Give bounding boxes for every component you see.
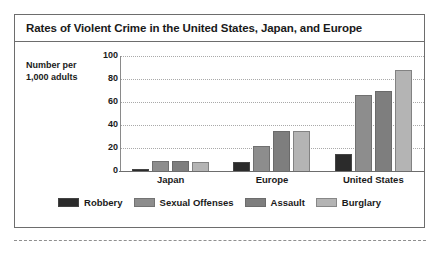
legend-item[interactable]: Sexual Offenses xyxy=(134,197,234,208)
figure-frame: Rates of Violent Crime in the United Sta… xyxy=(14,14,425,228)
y-axis-tick-label: 100 xyxy=(92,50,118,60)
bar[interactable] xyxy=(335,154,352,171)
legend-label: Assault xyxy=(271,197,305,208)
title-bar: Rates of Violent Crime in the United Sta… xyxy=(15,15,424,42)
bar[interactable] xyxy=(395,70,412,171)
bar[interactable] xyxy=(355,95,372,171)
y-axis-tick-label: 0 xyxy=(92,165,118,175)
bars xyxy=(323,56,424,171)
bar[interactable] xyxy=(172,161,189,171)
bar-group: Europe xyxy=(221,56,322,171)
y-axis-caption-line1: Number per xyxy=(26,59,96,71)
bar-group: Japan xyxy=(120,56,221,171)
legend-item[interactable]: Assault xyxy=(245,197,305,208)
bar-group: United States xyxy=(323,56,424,171)
bar[interactable] xyxy=(375,91,392,172)
x-axis-category-label: Europe xyxy=(221,174,322,185)
y-axis-caption-line2: 1,000 adults xyxy=(26,71,96,83)
bars xyxy=(221,56,322,171)
y-axis-tick-label: 20 xyxy=(92,142,118,152)
legend: RobberySexual OffensesAssaultBurglary xyxy=(15,197,424,208)
bar[interactable] xyxy=(233,162,250,171)
bar[interactable] xyxy=(132,169,149,171)
legend-swatch xyxy=(58,198,79,207)
bar[interactable] xyxy=(253,146,270,171)
legend-swatch xyxy=(134,198,155,207)
y-axis-tick-label: 80 xyxy=(92,73,118,83)
y-axis-tick-label: 40 xyxy=(92,119,118,129)
legend-label: Burglary xyxy=(342,197,381,208)
legend-swatch xyxy=(316,198,337,207)
x-axis-category-label: United States xyxy=(323,174,424,185)
x-axis-category-label: Japan xyxy=(120,174,221,185)
chart-body: Number per 1,000 adults 020406080100 Jap… xyxy=(15,42,424,228)
bars xyxy=(120,56,221,171)
bar-groups: JapanEuropeUnited States xyxy=(120,56,424,171)
page-bottom-divider xyxy=(14,240,426,241)
x-axis-line xyxy=(119,171,424,172)
bar[interactable] xyxy=(152,161,169,171)
bar[interactable] xyxy=(192,162,209,171)
legend-item[interactable]: Burglary xyxy=(316,197,381,208)
legend-label: Robbery xyxy=(84,197,123,208)
plot-area: 020406080100 JapanEuropeUnited States xyxy=(120,56,424,171)
bar[interactable] xyxy=(293,131,310,171)
y-axis-caption: Number per 1,000 adults xyxy=(26,59,96,83)
y-axis-tick-label: 60 xyxy=(92,96,118,106)
page-title: Rates of Violent Crime in the United Sta… xyxy=(26,22,362,34)
legend-swatch xyxy=(245,198,266,207)
legend-label: Sexual Offenses xyxy=(160,197,234,208)
bar[interactable] xyxy=(273,131,290,171)
legend-item[interactable]: Robbery xyxy=(58,197,123,208)
